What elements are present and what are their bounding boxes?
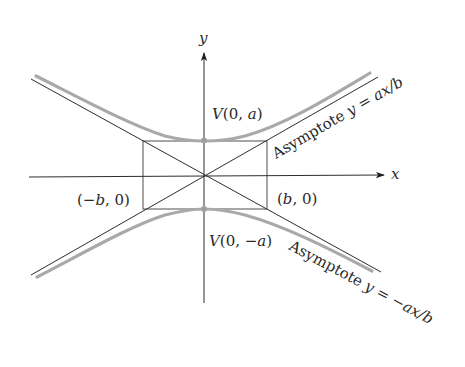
vertex-upper-dot [201,138,207,144]
co-vertex-right-label: (b, 0) [277,190,317,208]
asymptote-negative-label: Asymptote y = −ax/b [285,236,436,328]
hyperbola-diagram: y x V(0, a) V(0, −a) (−b, 0) (b, 0) Asym… [0,0,465,367]
vertex-lower-label: V(0, −a) [209,232,272,250]
vertex-upper-label: V(0, a) [212,105,263,123]
vertex-lower-dot [201,206,207,212]
x-axis-label: x [391,165,400,183]
y-axis-label: y [198,29,208,47]
co-vertex-left-label: (−b, 0) [77,191,130,209]
